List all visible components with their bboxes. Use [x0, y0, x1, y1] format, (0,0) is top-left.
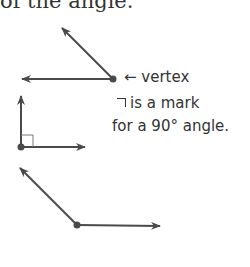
vertex-dot: [74, 222, 81, 229]
vertex-dot: [110, 76, 117, 83]
right-angle: [18, 96, 86, 151]
note-text: is a mark: [130, 94, 199, 112]
obtuse-angle-2: [20, 168, 160, 229]
vertex-dot: [18, 144, 25, 151]
vertex-label: ← vertex: [124, 68, 189, 87]
right-angle-note-line2: for a 90° angle.: [112, 117, 229, 136]
obtuse-angle-1: [22, 28, 117, 83]
right-angle-note-line1: is a mark: [117, 94, 199, 113]
right-angle-mark-icon: [117, 98, 126, 107]
